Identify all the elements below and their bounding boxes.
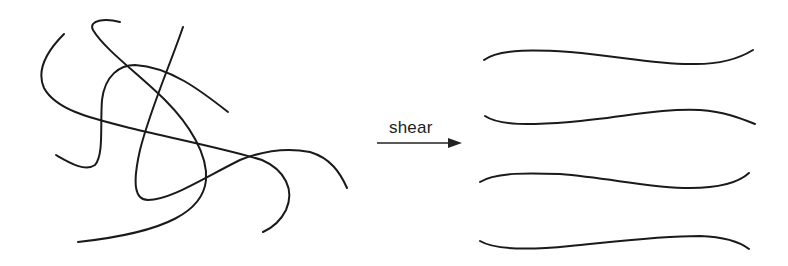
aligned-chain-3: [480, 173, 749, 188]
shear-label: shear: [389, 118, 433, 138]
aligned-chains: [480, 50, 755, 249]
aligned-chain-1: [484, 50, 753, 64]
aligned-chain-2: [485, 110, 755, 124]
entangled-chain-1: [41, 34, 289, 232]
aligned-chain-4: [480, 236, 749, 249]
entangled-chain-3: [136, 27, 347, 200]
shear-arrow: [377, 138, 462, 148]
entangled-chains: [41, 20, 347, 242]
